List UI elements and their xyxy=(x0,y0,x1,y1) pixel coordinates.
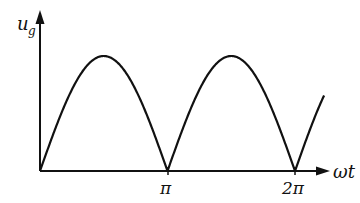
rectified-sine-curve xyxy=(40,56,324,171)
rectified-sine-diagram: π 2π ωt u g xyxy=(0,0,360,203)
y-axis-label-subscript: g xyxy=(28,24,36,38)
y-axis-label: u xyxy=(17,13,29,34)
x-axis-label: ωt xyxy=(333,161,356,182)
tick-label-2pi: 2π xyxy=(281,178,305,198)
y-axis-arrow-icon xyxy=(36,10,45,24)
x-axis-arrow-icon xyxy=(316,167,330,176)
tick-label-pi: π xyxy=(159,178,172,198)
